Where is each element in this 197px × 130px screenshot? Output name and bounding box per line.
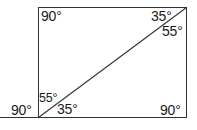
geometry-diagram: 90° 35° 55° 90° 55° 35° 90°: [0, 0, 197, 130]
angle-label-bottom-left-lower: 35°: [57, 102, 78, 116]
angle-label-bottom-right: 90°: [160, 103, 181, 117]
angle-label-bottom-left-upper: 55°: [39, 92, 57, 105]
angle-label-bottom-left-outer: 90°: [11, 103, 32, 117]
angle-label-top-right-upper: 35°: [151, 9, 172, 23]
angle-label-top-right-lower: 55°: [162, 24, 183, 38]
angle-label-top-left: 90°: [41, 9, 62, 23]
